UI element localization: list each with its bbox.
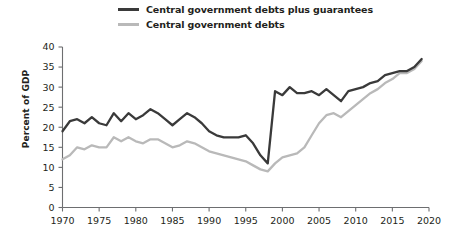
y-tick-label-15: 15 — [42, 142, 54, 153]
y-tick-label-35: 35 — [42, 61, 54, 72]
x-tick-label-1995: 1995 — [234, 215, 258, 226]
x-tick-label-1970: 1970 — [50, 215, 74, 226]
y-tick-label-0: 0 — [48, 202, 54, 213]
chart-container: Central government debts plus guarantees… — [0, 0, 459, 246]
x-axis-tick-group: 1970197519801985199019952000200520102015… — [50, 208, 441, 226]
x-tick-label-2015: 2015 — [380, 215, 404, 226]
x-tick-label-2005: 2005 — [307, 215, 331, 226]
chart-plot-area: 0510152025303540 19701975198019851990199… — [0, 0, 459, 246]
x-tick-label-2020: 2020 — [417, 215, 441, 226]
x-tick-label-1980: 1980 — [124, 215, 148, 226]
x-tick-label-1990: 1990 — [197, 215, 221, 226]
y-axis-tick-group: 0510152025303540 — [42, 41, 62, 213]
y-tick-label-25: 25 — [42, 102, 54, 113]
y-tick-label-40: 40 — [42, 41, 54, 52]
x-tick-label-2010: 2010 — [344, 215, 368, 226]
x-tick-label-2000: 2000 — [270, 215, 294, 226]
y-tick-label-10: 10 — [42, 162, 54, 173]
y-tick-label-30: 30 — [42, 82, 54, 93]
y-tick-label-20: 20 — [42, 122, 54, 133]
x-tick-label-1985: 1985 — [160, 215, 184, 226]
x-tick-label-1975: 1975 — [87, 215, 111, 226]
y-tick-label-5: 5 — [48, 182, 54, 193]
series-line-central-government-debts-plus-guarantees — [63, 59, 422, 163]
